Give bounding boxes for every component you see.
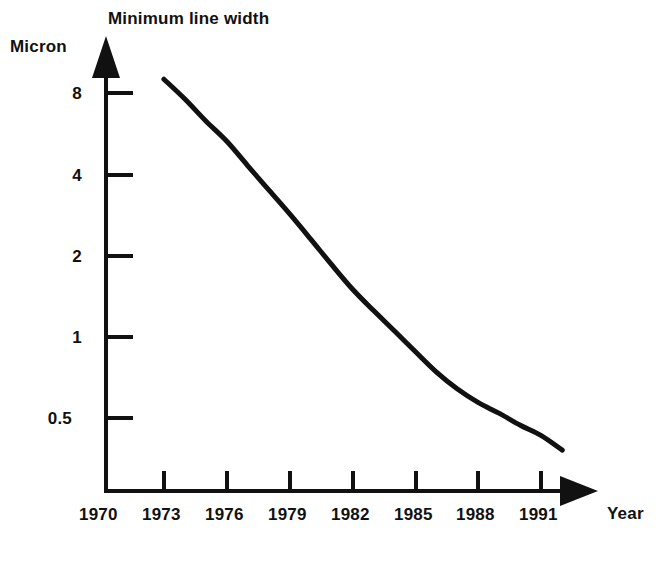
x-tick-label-1985: 1985 (394, 506, 433, 523)
data-line-series (164, 79, 562, 450)
chart-title: Minimum line width (108, 10, 269, 27)
chart-container: Minimum line width Micron Year 8 4 2 1 0… (0, 0, 666, 561)
x-tick-label-1970: 1970 (79, 506, 118, 523)
x-tick-label-1988: 1988 (456, 506, 495, 523)
chart-plot-area (0, 0, 666, 561)
y-axis-arrowhead (92, 36, 120, 78)
x-tick-label-1982: 1982 (331, 506, 370, 523)
y-axis-title: Micron (10, 38, 67, 55)
x-axis-title: Year (607, 505, 644, 522)
x-tick-marks (164, 471, 541, 491)
y-tick-label-0.5: 0.5 (12, 410, 72, 427)
x-tick-label-1976: 1976 (205, 506, 244, 523)
y-tick-label-8: 8 (22, 85, 82, 102)
x-tick-label-1991: 1991 (519, 506, 558, 523)
y-tick-label-4: 4 (22, 167, 82, 184)
x-tick-label-1973: 1973 (142, 506, 181, 523)
x-axis-arrowhead (560, 476, 598, 506)
y-tick-label-1: 1 (22, 329, 82, 346)
y-tick-label-2: 2 (22, 248, 82, 265)
x-tick-label-1979: 1979 (268, 506, 307, 523)
y-tick-marks (106, 93, 133, 418)
